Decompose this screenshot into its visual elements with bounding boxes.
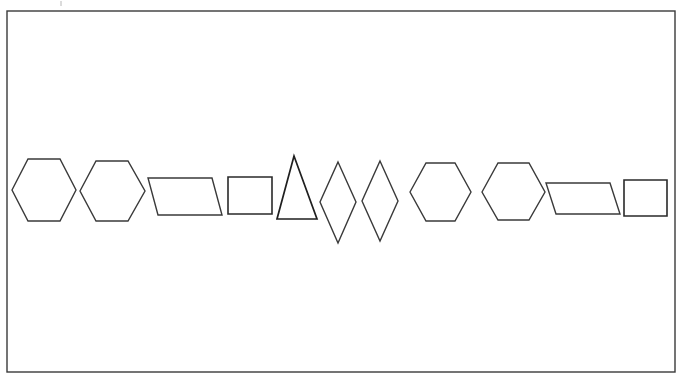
shapes-figure — [0, 0, 681, 383]
canvas-background — [0, 0, 681, 383]
figure-canvas — [0, 0, 681, 383]
